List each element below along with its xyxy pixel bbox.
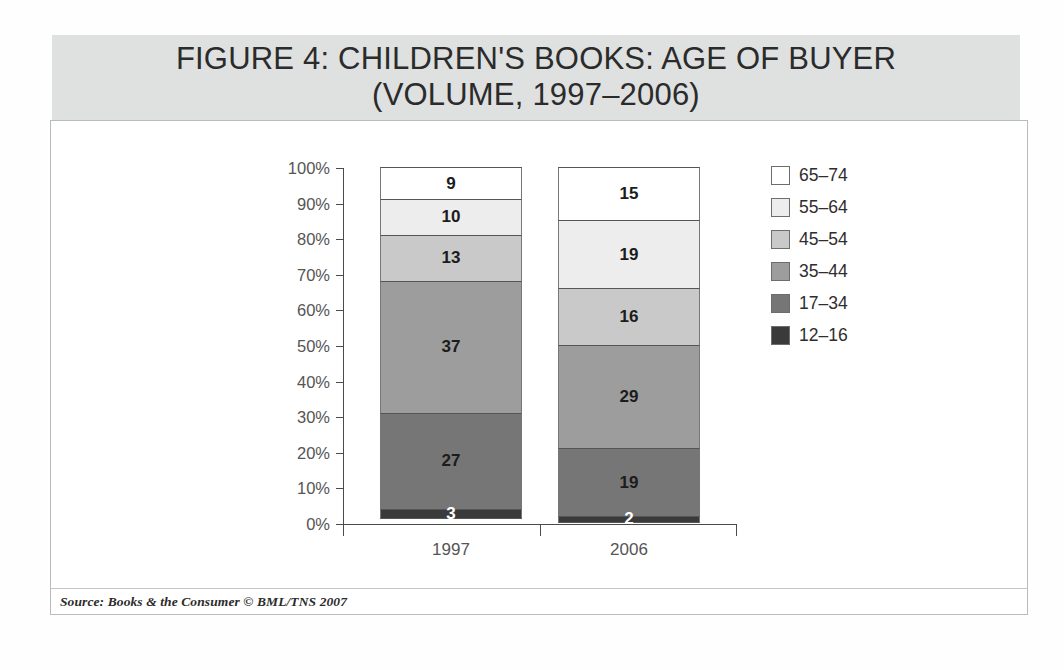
bar-segment[interactable]: 37: [380, 281, 522, 413]
y-axis-tick: [336, 382, 344, 383]
x-axis-category-label: 1997: [391, 540, 511, 560]
legend-item-label: 65–74: [799, 165, 848, 186]
x-axis-line: [336, 524, 736, 525]
bar-segment-value: 3: [446, 504, 455, 524]
x-axis-tick: [736, 524, 737, 536]
source-note: Source: Books & the Consumer © BML/TNS 2…: [60, 594, 347, 610]
bar-segment-value: 10: [442, 207, 461, 227]
bar-segment[interactable]: 10: [380, 199, 522, 235]
legend-swatch-icon: [771, 198, 790, 217]
bar-segment-value: 19: [620, 473, 639, 493]
legend-swatch-icon: [771, 230, 790, 249]
bar-segment-value: 16: [620, 307, 639, 327]
y-axis-tick-label: 50%: [260, 337, 330, 356]
y-axis-tick: [336, 275, 344, 276]
bar-segment[interactable]: 19: [558, 448, 700, 516]
legend-item[interactable]: 12–16: [771, 320, 951, 350]
bar-segment-value: 9: [446, 174, 455, 194]
y-axis-tick-label: 90%: [260, 195, 330, 214]
bar-segment-value: 13: [442, 248, 461, 268]
bar-segment-value: 27: [442, 451, 461, 471]
bar-segment[interactable]: 27: [380, 413, 522, 509]
bar-segment[interactable]: 16: [558, 288, 700, 345]
y-axis-tick: [336, 346, 344, 347]
y-axis-tick-label: 20%: [260, 444, 330, 463]
figure-container: FIGURE 4: CHILDREN'S BOOKS: AGE OF BUYER…: [0, 0, 1064, 670]
bar-segment-value: 2: [624, 509, 633, 529]
y-axis-tick-label: 60%: [260, 301, 330, 320]
bar-segment[interactable]: 3: [380, 509, 522, 520]
legend-swatch-icon: [771, 166, 790, 185]
x-axis-tick: [343, 524, 344, 536]
bar-segment[interactable]: 9: [380, 167, 522, 199]
source-divider: [51, 588, 1027, 589]
bar-segment[interactable]: 13: [380, 235, 522, 281]
legend-swatch-icon: [771, 294, 790, 313]
bar-segment-value: 15: [620, 184, 639, 204]
figure-title: FIGURE 4: CHILDREN'S BOOKS: AGE OF BUYER…: [52, 41, 1020, 113]
title-banner: FIGURE 4: CHILDREN'S BOOKS: AGE OF BUYER…: [52, 35, 1020, 120]
y-axis-tick-label: 10%: [260, 479, 330, 498]
bar-segment-value: 19: [620, 245, 639, 265]
bar-segment[interactable]: 15: [558, 167, 700, 220]
y-axis-tick-label: 80%: [260, 230, 330, 249]
y-axis-labels: 0%10%20%30%40%50%60%70%80%90%100%: [255, 168, 330, 524]
bar-segment-value: 29: [620, 387, 639, 407]
y-axis-tick: [336, 168, 344, 169]
y-axis-tick: [336, 417, 344, 418]
y-axis-tick: [336, 204, 344, 205]
legend-swatch-icon: [771, 326, 790, 345]
y-axis-tick-label: 30%: [260, 408, 330, 427]
x-axis-tick: [540, 524, 541, 536]
legend-item[interactable]: 45–54: [771, 224, 951, 254]
legend-item-label: 12–16: [799, 325, 848, 346]
y-axis-tick: [336, 453, 344, 454]
bar-segment[interactable]: 2: [558, 516, 700, 523]
legend-swatch-icon: [771, 262, 790, 281]
x-axis-category-label: 2006: [569, 540, 689, 560]
legend-item[interactable]: 65–74: [771, 160, 951, 190]
y-axis-tick-label: 70%: [260, 266, 330, 285]
y-axis-tick: [336, 239, 344, 240]
legend-item-label: 55–64: [799, 197, 848, 218]
stacked-bar[interactable]: 15191629192: [558, 167, 700, 523]
plot-area: 910133727315191629192: [343, 168, 727, 523]
chart-legend: 65–7455–6445–5435–4417–3412–16: [771, 160, 951, 352]
legend-item[interactable]: 35–44: [771, 256, 951, 286]
y-axis-tick-label: 100%: [260, 159, 330, 178]
y-axis-tick: [336, 488, 344, 489]
bar-segment-value: 37: [442, 337, 461, 357]
stacked-bar[interactable]: 9101337273: [380, 167, 522, 523]
legend-item-label: 45–54: [799, 229, 848, 250]
legend-item-label: 17–34: [799, 293, 848, 314]
y-axis-tick-label: 0%: [260, 515, 330, 534]
legend-item[interactable]: 55–64: [771, 192, 951, 222]
legend-item[interactable]: 17–34: [771, 288, 951, 318]
y-axis-tick: [336, 310, 344, 311]
bar-segment[interactable]: 19: [558, 220, 700, 288]
y-axis-tick-label: 40%: [260, 373, 330, 392]
bar-segment[interactable]: 29: [558, 345, 700, 448]
legend-item-label: 35–44: [799, 261, 848, 282]
